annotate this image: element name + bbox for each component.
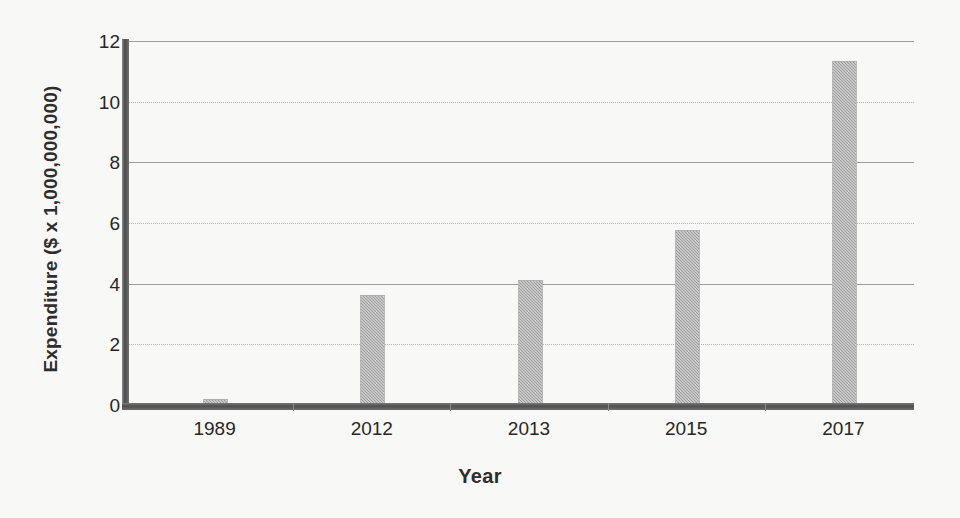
x-tick-label: 2013 — [469, 418, 589, 440]
y-axis-tick-labels: 121086420 — [86, 30, 120, 416]
bar-2015[interactable] — [675, 230, 700, 405]
x-tick-mark — [765, 403, 766, 411]
x-tick-label: 2015 — [626, 418, 746, 440]
x-tick-mark — [293, 403, 294, 411]
bar-2013[interactable] — [518, 280, 543, 405]
y-axis-spine — [122, 39, 129, 409]
y-tick-label: 8 — [86, 153, 120, 172]
y-tick-label: 2 — [86, 335, 120, 354]
y-tick-label: 12 — [86, 32, 120, 51]
y-axis-title: Expenditure ($ x 1,000,000,000) — [40, 44, 62, 414]
gridline — [128, 162, 914, 163]
gridline — [128, 41, 914, 42]
y-tick-label: 10 — [86, 92, 120, 111]
x-tick-label: 2012 — [312, 418, 432, 440]
y-tick-label: 6 — [86, 214, 120, 233]
plot-area — [128, 41, 914, 405]
x-axis-spine — [122, 403, 914, 410]
bar-2017[interactable] — [832, 61, 857, 405]
x-tick-label: 1989 — [155, 418, 275, 440]
x-tick-mark — [450, 403, 451, 411]
gridline — [128, 223, 914, 224]
gridline — [128, 102, 914, 103]
bar-2012[interactable] — [360, 295, 385, 405]
bar-chart-figure: Expenditure ($ x 1,000,000,000) 12108642… — [0, 0, 960, 518]
x-tick-mark — [608, 403, 609, 411]
y-tick-label: 0 — [86, 396, 120, 415]
y-tick-label: 4 — [86, 274, 120, 293]
x-axis-title: Year — [0, 465, 960, 488]
x-tick-label: 2017 — [783, 418, 903, 440]
